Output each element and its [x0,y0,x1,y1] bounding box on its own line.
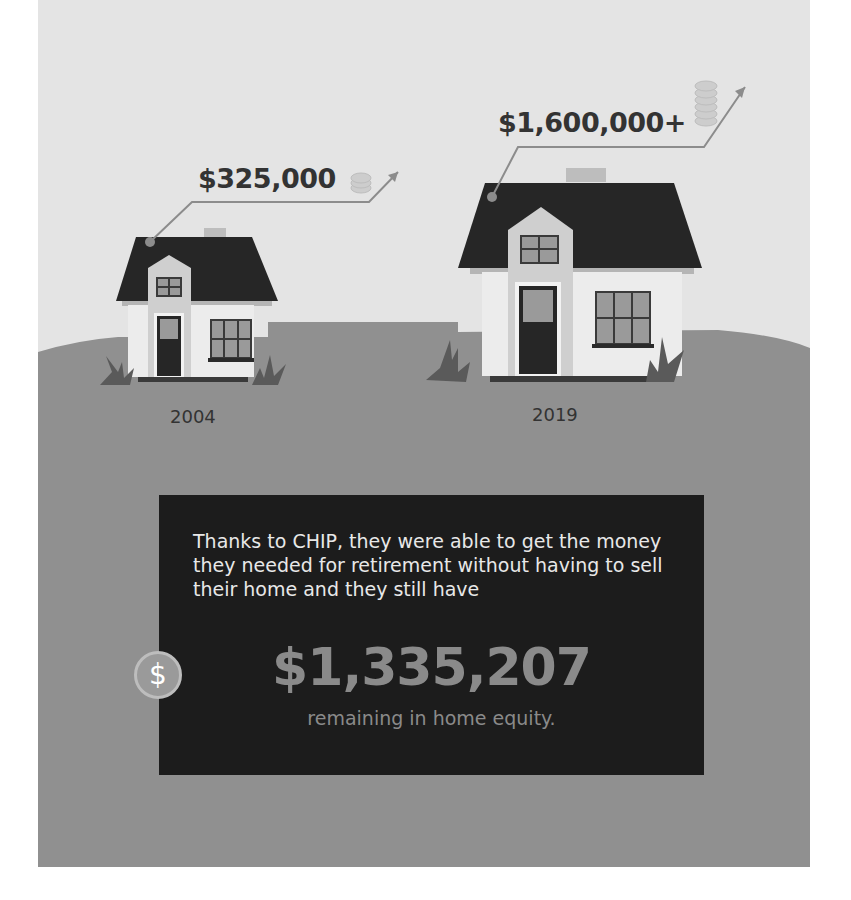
price-2019: $1,600,000+ [498,107,686,138]
infographic-panel: $325,000 $1,600,000+ 2004 2019 Thanks to… [38,0,810,867]
price-2004: $325,000 [198,163,336,194]
coin-stack-icon-2004 [351,173,371,193]
dollar-coin-icon: $ [134,651,182,699]
callout-text: Thanks to CHIP, they were able to get th… [193,529,693,601]
coin-stack-icon-2019 [695,81,717,126]
year-label-2019: 2019 [532,404,578,425]
equity-callout-box: Thanks to CHIP, they were able to get th… [159,495,704,775]
year-label-2004: 2004 [170,406,216,427]
equity-caption: remaining in home equity. [159,707,704,729]
equity-amount: $1,335,207 [159,637,704,697]
